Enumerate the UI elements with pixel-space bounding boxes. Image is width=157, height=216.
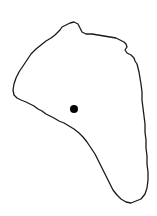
location-dot-marker bbox=[70, 105, 78, 113]
island-map bbox=[0, 0, 157, 216]
markers-layer bbox=[70, 105, 78, 113]
map-background bbox=[0, 0, 157, 216]
